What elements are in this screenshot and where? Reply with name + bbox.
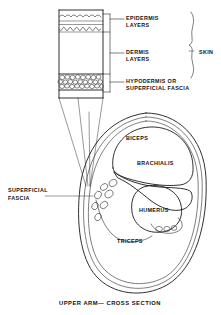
dermoepidermal-junction-wave — [59, 27, 101, 30]
connector-line-inner — [89, 112, 90, 186]
label-superficial-fascia-line2: FASCIA — [8, 195, 30, 201]
label-hypodermis-line1: HYPODERMIS OR — [126, 78, 176, 84]
label-brachialis: BRACHIALIS — [137, 160, 174, 166]
label-dermis-line1: DERMIS — [126, 49, 149, 55]
medial-vessel-3 — [93, 190, 103, 200]
label-biceps: BICEPS — [126, 135, 148, 141]
skin-detail-inset — [58, 10, 124, 98]
label-skin-bracket: SKIN — [199, 49, 213, 55]
medial-vessel-7 — [94, 212, 103, 222]
vessel-1 — [156, 226, 163, 231]
anatomy-diagram-figure: EPIDERMIS LAYERS DERMIS LAYERS HYPODERMI… — [0, 0, 221, 315]
medial-vessel-chain — [91, 178, 119, 221]
diagram-canvas: EPIDERMIS LAYERS DERMIS LAYERS HYPODERMI… — [0, 0, 221, 315]
arm-outline-deep-fascia — [88, 121, 198, 284]
medial-vessel-1 — [108, 178, 118, 187]
label-hypodermis-line2: SUPERFICIAL FASCIA — [126, 85, 189, 91]
label-dermis-line2: LAYERS — [126, 56, 150, 62]
label-superficial-fascia-line1: SUPERFICIAL — [8, 187, 48, 193]
label-epidermis-line2: LAYERS — [126, 22, 150, 28]
label-humerus: HUMERUS — [139, 207, 169, 213]
medial-vessel-6 — [99, 200, 110, 210]
skin-curly-brace — [189, 12, 194, 78]
skin-brace-group — [189, 12, 194, 78]
medial-vessel-2 — [99, 182, 109, 192]
medial-vessel-4 — [103, 189, 114, 199]
connector-line-right — [90, 98, 103, 186]
epidermis-surface-wave — [59, 15, 101, 17]
label-triceps: TRICEPS — [117, 238, 143, 244]
medial-vessel-5 — [91, 201, 100, 211]
label-epidermis-line1: EPIDERMIS — [126, 15, 159, 21]
figure-caption: UPPER ARM— CROSS SECTION — [59, 300, 161, 306]
connector-line-left — [59, 98, 86, 186]
magnifier-connector-lines — [59, 98, 103, 186]
biceps-outline — [113, 127, 193, 186]
adipose-cell-cluster — [58, 75, 103, 89]
